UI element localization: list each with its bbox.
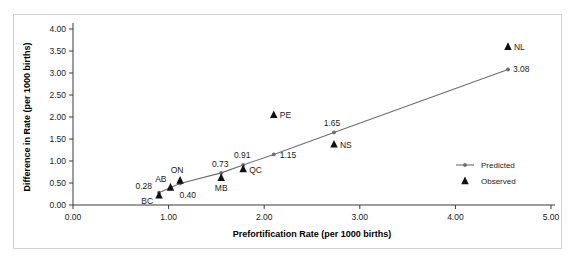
y-tick-label: 0.50 [49, 178, 66, 188]
x-tick-label: 4.00 [447, 212, 464, 222]
legend-observed-marker [461, 177, 468, 185]
x-tick-label: 0.00 [65, 212, 82, 222]
x-tick-label: 5.00 [543, 212, 560, 222]
predicted-point [506, 68, 510, 72]
predicted-value-label: 0.40 [180, 190, 197, 200]
x-tick-label: 3.00 [352, 212, 369, 222]
predicted-value-label: 0.91 [234, 150, 251, 160]
predicted-value-label: 1.15 [280, 150, 297, 160]
y-tick-label: 1.00 [49, 156, 66, 166]
y-tick-label: 4.00 [49, 24, 66, 34]
observed-point-label: NL [514, 42, 525, 52]
observed-point-label: NS [340, 140, 352, 150]
predicted-value-label: 3.08 [513, 64, 530, 74]
observed-point-label: ON [171, 165, 184, 175]
observed-point-label: PE [280, 110, 292, 120]
observed-point-label: BC [141, 196, 153, 206]
predicted-value-label: 0.73 [212, 159, 229, 169]
scatter-chart: 0.000.501.001.502.002.503.003.504.000.00… [14, 15, 561, 248]
y-tick-label: 3.50 [49, 46, 66, 56]
predicted-value-label: 1.65 [324, 118, 341, 128]
observed-point-label: MB [215, 183, 228, 193]
figure-panel: 0.000.501.001.502.002.503.003.504.000.00… [13, 14, 562, 249]
observed-point [176, 176, 183, 184]
legend-predicted-label: Predicted [481, 161, 515, 170]
y-tick-label: 2.00 [49, 112, 66, 122]
observed-point [270, 110, 277, 118]
y-tick-label: 1.50 [49, 134, 66, 144]
legend-predicted-marker [463, 163, 467, 167]
predicted-point [272, 153, 276, 157]
x-axis-title: Prefortification Rate (per 1000 births) [233, 229, 392, 239]
observed-point-label: AB [155, 174, 167, 184]
x-tick-label: 2.00 [256, 212, 273, 222]
predicted-point [332, 131, 336, 135]
y-tick-label: 0.00 [49, 200, 66, 210]
x-tick-label: 1.00 [160, 212, 177, 222]
observed-point [504, 42, 511, 50]
legend-observed-label: Observed [481, 177, 516, 186]
observed-point [217, 173, 224, 181]
observed-point-label: QC [249, 165, 262, 175]
predicted-value-label: 0.28 [135, 181, 152, 191]
observed-point [330, 140, 337, 148]
y-tick-label: 3.00 [49, 68, 66, 78]
y-axis-title: Difference in Rate (per 1000 births) [22, 42, 32, 191]
y-tick-label: 2.50 [49, 90, 66, 100]
